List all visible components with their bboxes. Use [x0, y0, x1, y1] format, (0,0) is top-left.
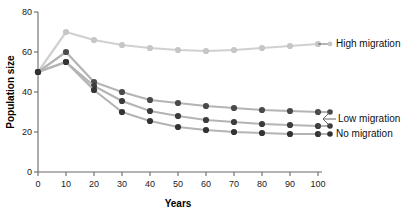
series-2	[35, 59, 321, 129]
data-point	[175, 124, 181, 130]
data-point	[91, 87, 97, 93]
data-point	[147, 108, 153, 114]
data-point	[231, 129, 237, 135]
axes-layer	[34, 12, 322, 176]
data-point	[287, 43, 293, 49]
data-point	[287, 122, 293, 128]
data-point	[175, 47, 181, 53]
data-point	[231, 47, 237, 53]
data-point	[231, 119, 237, 125]
x-tick-label: 20	[89, 179, 99, 189]
data-point	[63, 49, 69, 55]
chart-canvas: 0204060800102030405060708090100 High mig…	[0, 0, 402, 213]
data-point	[175, 100, 181, 106]
no-migration-marker	[327, 131, 333, 137]
data-point	[203, 117, 209, 123]
data-point	[203, 127, 209, 133]
data-point	[119, 89, 125, 95]
data-point	[119, 98, 125, 104]
x-tick-label: 100	[310, 179, 325, 189]
data-point	[259, 107, 265, 113]
x-tick-label: 40	[145, 179, 155, 189]
annotation-layer: High migrationLow migrationNo migration	[318, 38, 400, 139]
y-axis-title: Population size	[5, 55, 16, 129]
x-tick-label: 30	[117, 179, 127, 189]
y-tick-label: 40	[22, 87, 32, 97]
y-tick-label: 60	[22, 47, 32, 57]
data-point	[203, 48, 209, 54]
y-tick-label: 20	[22, 127, 32, 137]
data-point	[35, 69, 41, 75]
data-point	[119, 42, 125, 48]
data-point	[259, 130, 265, 136]
data-point	[259, 45, 265, 51]
x-axis-title: Years	[165, 198, 192, 209]
y-tick-label: 80	[22, 7, 32, 17]
high-migration-label: High migration	[336, 38, 400, 49]
x-tick-label: 70	[229, 179, 239, 189]
high-migration-marker	[328, 42, 333, 47]
data-point	[63, 59, 69, 65]
data-point	[147, 118, 153, 124]
x-tick-label: 90	[285, 179, 295, 189]
data-point	[147, 97, 153, 103]
series-0	[35, 29, 321, 75]
data-point	[175, 113, 181, 119]
series-1	[35, 49, 321, 115]
y-tick-label: 0	[27, 167, 32, 177]
data-point	[287, 131, 293, 137]
x-tick-label: 10	[61, 179, 71, 189]
data-point	[259, 121, 265, 127]
data-point	[119, 109, 125, 115]
no-migration-label: No migration	[336, 128, 393, 139]
x-tick-label: 80	[257, 179, 267, 189]
low-migration-label: Low migration	[338, 113, 400, 124]
data-point	[63, 29, 69, 35]
data-point	[91, 37, 97, 43]
series-layer	[35, 29, 321, 137]
data-point	[147, 45, 153, 51]
data-point	[287, 108, 293, 114]
x-tick-label: 60	[201, 179, 211, 189]
population-size-line-chart: 0204060800102030405060708090100 High mig…	[0, 0, 402, 213]
data-point	[231, 105, 237, 111]
x-tick-label: 50	[173, 179, 183, 189]
x-tick-label: 0	[35, 179, 40, 189]
data-point	[203, 103, 209, 109]
